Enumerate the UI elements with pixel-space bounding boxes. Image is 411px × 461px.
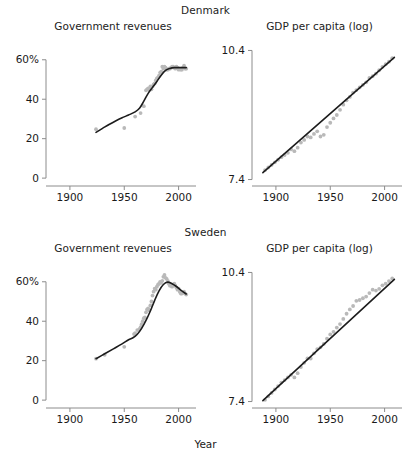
scatter-points (94, 273, 188, 361)
y-tick-label: 10.4 (222, 266, 246, 278)
figure-panel-grid: Denmark Government revenues 60%402001900… (0, 0, 411, 461)
y-tick-label: 7.4 (228, 173, 245, 185)
panel-denmark-revenues: Government revenues 60%40200190019502000 (0, 20, 212, 215)
y-tick-label: 10.4 (222, 44, 246, 56)
x-tick-label: 1900 (263, 413, 290, 425)
plot-svg-denmark-gdp: 10.47.4190019502000 (212, 34, 411, 214)
y-tick-label: 40 (26, 315, 39, 327)
trend-line (96, 68, 186, 133)
strip-label-denmark: Denmark (0, 4, 411, 16)
x-tick-label: 1950 (317, 191, 344, 203)
x-tick-label: 1900 (57, 413, 84, 425)
x-tick-label: 1950 (317, 413, 344, 425)
panel-sweden-gdp: GDP per capita (log) 10.47.4190019502000 (212, 242, 411, 437)
x-tick-label: 2000 (165, 413, 192, 425)
plot-sweden-gdp: 10.47.4190019502000 (212, 256, 411, 436)
y-tick-label: 40 (26, 93, 39, 105)
trend-line (263, 279, 395, 400)
x-tick-label: 1900 (57, 191, 84, 203)
x-tick-label: 2000 (165, 191, 192, 203)
y-tick-label: 20 (26, 132, 39, 144)
panel-title-gdp: GDP per capita (log) (212, 242, 411, 254)
plot-svg-sweden-gdp: 10.47.4190019502000 (212, 256, 411, 436)
y-tick-label: 20 (26, 354, 39, 366)
x-tick-label: 1950 (111, 413, 138, 425)
panel-title-revenues: Government revenues (0, 20, 212, 32)
plot-denmark-revenues: 60%40200190019502000 (0, 34, 212, 214)
x-tick-label: 2000 (371, 191, 398, 203)
y-tick-label: 60% (16, 53, 39, 65)
y-tick-label: 0 (32, 394, 39, 406)
strip-sweden: Sweden Government revenues 60%4020019001… (0, 222, 411, 437)
x-tick-label: 1950 (111, 191, 138, 203)
x-tick-label: 2000 (371, 413, 398, 425)
strip-label-sweden: Sweden (0, 226, 411, 238)
plot-sweden-revenues: 60%40200190019502000 (0, 256, 212, 436)
plot-svg-denmark-revenues: 60%40200190019502000 (0, 34, 212, 214)
panel-sweden-revenues: Government revenues 60%40200190019502000 (0, 242, 212, 437)
plot-svg-sweden-revenues: 60%40200190019502000 (0, 256, 212, 436)
x-axis-title: Year (0, 438, 411, 450)
x-tick-label: 1900 (263, 191, 290, 203)
panel-title-revenues: Government revenues (0, 242, 212, 254)
plot-denmark-gdp: 10.47.4190019502000 (212, 34, 411, 214)
scatter-points (94, 64, 188, 131)
trend-line (263, 57, 395, 172)
y-tick-label: 0 (32, 172, 39, 184)
strip-denmark: Denmark Government revenues 60%402001900… (0, 0, 411, 215)
panel-title-gdp: GDP per capita (log) (212, 20, 411, 32)
y-tick-label: 60% (16, 275, 39, 287)
y-tick-label: 7.4 (228, 395, 245, 407)
panel-denmark-gdp: GDP per capita (log) 10.47.4190019502000 (212, 20, 411, 215)
